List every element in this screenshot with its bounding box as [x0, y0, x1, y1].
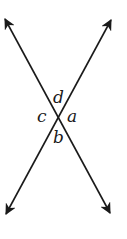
angle-label-d: d	[53, 87, 64, 107]
angle-label-c: c	[37, 106, 47, 126]
line-1	[5, 19, 110, 213]
intersecting-lines-diagram: d c a b	[0, 0, 127, 239]
angle-label-a: a	[67, 106, 77, 126]
angle-label-b: b	[53, 127, 64, 147]
